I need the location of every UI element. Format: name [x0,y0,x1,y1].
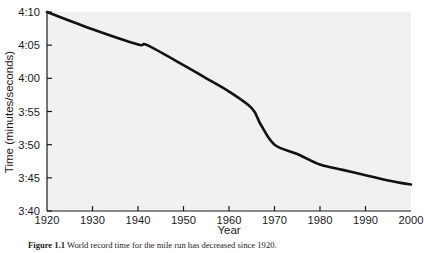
x-tick-label: 1970 [262,214,287,226]
y-tick-label: 3:50 [18,139,40,151]
figure-caption-text: World record time for the mile run has d… [67,240,277,250]
y-tick-label: 3:45 [18,172,40,184]
x-tick-label: 1990 [353,214,378,226]
x-tick-label: 1980 [308,214,333,226]
y-tick-label: 4:00 [18,72,40,84]
x-tick-label: 2000 [399,214,424,226]
x-tick-label: 1940 [126,214,151,226]
figure-caption: Figure 1.1 World record time for the mil… [28,240,420,251]
plot-background [47,12,411,211]
y-tick-label: 4:10 [18,6,40,18]
x-axis-title: Year [217,224,240,236]
y-axis-title: Time (minutes/seconds) [3,51,15,173]
chart-area: 3:403:453:503:554:004:054:10 19201930194… [0,0,424,236]
figure-caption-label: Figure 1.1 [28,240,65,250]
x-tick-label: 1950 [171,214,196,226]
x-tick-label: 1920 [35,214,60,226]
y-tick-label: 3:55 [18,106,40,118]
y-axis-tick-labels: 3:403:453:503:554:004:054:10 [18,6,40,217]
x-tick-label: 1930 [80,214,105,226]
figure-container: 3:403:453:503:554:004:054:10 19201930194… [0,0,424,253]
line-chart: 3:403:453:503:554:004:054:10 19201930194… [0,0,424,236]
y-tick-label: 4:05 [18,39,40,51]
